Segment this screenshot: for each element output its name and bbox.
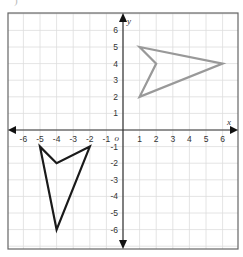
y-tick-label: -2 <box>110 158 118 168</box>
y-tick-label: 1 <box>113 108 118 118</box>
figures <box>40 47 223 230</box>
x-tick-label: 5 <box>204 134 209 144</box>
axes <box>8 13 238 249</box>
y-axis-label: y <box>126 16 131 26</box>
origin-label: o <box>115 133 120 143</box>
y-tick-label: 2 <box>113 92 118 102</box>
y-tick-label: -1 <box>110 142 118 152</box>
y-tick-label: 3 <box>113 75 118 85</box>
y-tick-label: -4 <box>110 191 118 201</box>
x-tick-label: -6 <box>20 134 28 144</box>
coordinate-plane: -6-5-4-3-2-1123456654321-1-2-3-4-5-6oxy <box>0 0 243 257</box>
x-tick-label: 3 <box>170 134 175 144</box>
y-tick-label: 4 <box>113 59 118 69</box>
y-tick-label: -6 <box>110 225 118 235</box>
x-tick-label: -5 <box>36 134 44 144</box>
x-tick-label: -3 <box>69 134 77 144</box>
y-tick-label: -3 <box>110 175 118 185</box>
x-tick-label: -1 <box>103 134 111 144</box>
x-tick-label: -4 <box>53 134 61 144</box>
black-figure <box>40 147 90 230</box>
x-tick-label: 4 <box>187 134 192 144</box>
x-tick-label: 1 <box>137 134 142 144</box>
y-axis-up-arrow-icon <box>119 13 127 22</box>
y-axis-down-arrow-icon <box>119 240 127 249</box>
y-tick-label: 6 <box>113 25 118 35</box>
x-tick-label: 6 <box>220 134 225 144</box>
y-tick-label: 5 <box>113 42 118 52</box>
x-tick-label: -2 <box>86 134 94 144</box>
x-axis-label: x <box>226 117 231 127</box>
x-axis-right-arrow-icon <box>230 126 238 134</box>
x-axis-left-arrow-icon <box>8 126 16 134</box>
x-tick-label: 2 <box>154 134 159 144</box>
gray-figure <box>140 47 223 97</box>
y-tick-label: -5 <box>110 208 118 218</box>
